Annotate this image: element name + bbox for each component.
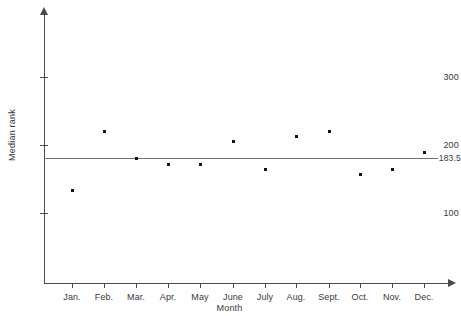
x-tick-mark [136, 283, 137, 288]
x-tick-mark [392, 283, 393, 288]
data-point [135, 157, 138, 160]
data-point [391, 168, 394, 171]
data-point [167, 163, 170, 166]
x-axis-line [44, 283, 452, 284]
x-tick-mark [72, 283, 73, 288]
data-point [328, 130, 331, 133]
x-tick-mark [360, 283, 361, 288]
data-point [71, 189, 74, 192]
x-tick-mark [265, 283, 266, 288]
x-tick-mark [424, 283, 425, 288]
x-tick-mark [104, 283, 105, 288]
x-axis-arrow-icon [448, 279, 456, 287]
y-tick-mark [40, 213, 48, 214]
y-tick-label: 300 [421, 73, 459, 82]
x-tick-mark [329, 283, 330, 288]
data-point [103, 130, 106, 133]
data-point [359, 173, 362, 176]
y-tick-mark [40, 77, 48, 78]
y-tick-mark [40, 145, 48, 146]
data-point [264, 168, 267, 171]
y-tick-label: 200 [421, 141, 459, 150]
x-axis-title: Month [0, 303, 459, 313]
y-tick-label: 100 [421, 209, 459, 218]
x-tick-label: Dec. [404, 292, 444, 302]
data-point [199, 163, 202, 166]
x-tick-mark [200, 283, 201, 288]
reference-line [44, 158, 438, 159]
data-point [295, 135, 298, 138]
x-tick-mark [296, 283, 297, 288]
y-axis-line [44, 14, 45, 283]
data-point [232, 140, 235, 143]
data-point [423, 151, 426, 154]
y-axis-title: Median rank [7, 100, 17, 170]
x-tick-mark [233, 283, 234, 288]
x-tick-mark [168, 283, 169, 288]
